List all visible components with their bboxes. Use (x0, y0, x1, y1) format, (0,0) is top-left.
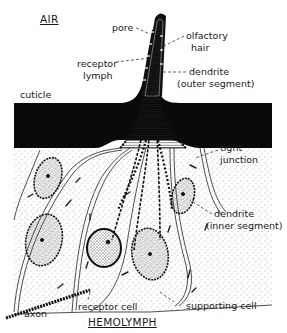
axon-label: axon (24, 308, 47, 319)
receptor-lymph-label-line2: lymph (83, 70, 113, 81)
tight-junction-label-line2: junction (220, 154, 258, 165)
hemolymph-region-label: HEMOLYMPH (88, 317, 157, 328)
olfactory-hair (141, 13, 166, 96)
receptor-lymph-label-line1: receptor (77, 58, 117, 69)
olfactory-hair-label-line1: olfactory (186, 30, 228, 41)
tight-junction-label-line1: tight (220, 142, 242, 153)
dendrite-inner-label-line2: (inner segment) (206, 220, 283, 231)
cuticle-label: cuticle (20, 89, 51, 100)
pore-label: pore (112, 22, 133, 33)
air-region-label: AIR (40, 14, 58, 25)
receptor-cell-label: receptor cell (78, 301, 137, 312)
sensillum-illustration (0, 0, 287, 333)
sensillum-diagram: AIR pore olfactory hair receptor lymph d… (0, 0, 287, 333)
olfactory-hair-label-line2: hair (191, 42, 209, 53)
dendrite-outer-label-line2: (outer segment) (177, 78, 254, 89)
dendrite-outer-label-line1: dendrite (189, 66, 229, 77)
dendrite-inner-label-line1: dendrite (214, 208, 254, 219)
supporting-cell-label: supporting cell (186, 300, 257, 311)
